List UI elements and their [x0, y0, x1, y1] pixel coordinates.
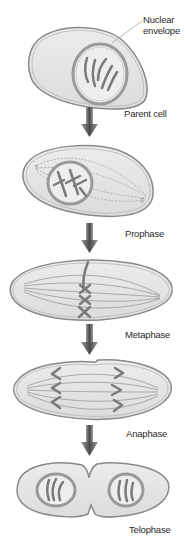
stage-label-prophase: Prophase	[125, 228, 164, 239]
nuclear-envelope-callout: Nuclear envelope	[143, 14, 180, 36]
anaphase-cell	[14, 360, 171, 420]
parent-cell	[29, 21, 147, 109]
arrow-down-icon	[81, 223, 98, 253]
arrow-down-icon	[81, 324, 98, 355]
stage-label-parent-cell: Parent cell	[124, 108, 167, 119]
mitosis-diagram: Ⲧ Ⲧ	[0, 0, 185, 544]
nucleus	[73, 44, 127, 104]
arrow-down-icon	[81, 107, 98, 137]
prophase-cell: Ⲧ Ⲧ	[23, 146, 153, 217]
stage-label-anaphase: Anaphase	[126, 428, 167, 439]
arrow-down-icon	[81, 425, 98, 456]
callout-line2: envelope	[143, 25, 180, 36]
callout-line1: Nuclear	[143, 14, 180, 25]
stage-label-telophase: Telophase	[129, 524, 171, 535]
metaphase-cell	[10, 260, 172, 320]
telophase-cell	[17, 463, 169, 517]
stage-label-metaphase: Metaphase	[125, 329, 170, 340]
callout-leader-line	[112, 21, 142, 43]
